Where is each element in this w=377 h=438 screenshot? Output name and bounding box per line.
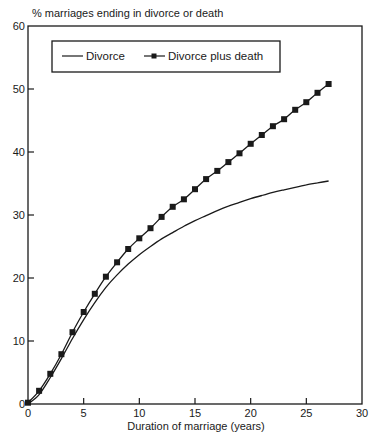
square-marker-icon: [303, 99, 309, 105]
square-marker-icon: [114, 259, 120, 265]
square-marker-icon: [36, 388, 42, 394]
legend-label-divorce-plus-death: Divorce plus death: [168, 50, 263, 62]
square-marker-icon: [203, 176, 209, 182]
square-marker-icon: [237, 150, 243, 156]
x-tick-label: 25: [300, 407, 312, 419]
square-marker-icon: [170, 204, 176, 210]
square-marker-icon: [92, 291, 98, 297]
square-marker-icon: [281, 116, 287, 122]
x-tick-label: 15: [189, 407, 201, 419]
square-marker-icon: [148, 225, 154, 231]
square-marker-icon: [315, 90, 321, 96]
square-marker-icon: [248, 141, 254, 147]
legend-square-marker-icon: [152, 54, 157, 59]
y-axis-title: % marriages ending in divorce or death: [32, 7, 223, 19]
x-tick-label: 0: [25, 407, 31, 419]
square-marker-icon: [136, 235, 142, 241]
square-marker-icon: [192, 186, 198, 192]
line-chart: % marriages ending in divorce or death 0…: [0, 0, 377, 438]
y-tick-label: 40: [13, 146, 25, 158]
square-marker-icon: [58, 351, 64, 357]
square-marker-icon: [270, 123, 276, 129]
square-marker-icon: [125, 246, 131, 252]
x-tick-label: 30: [356, 407, 368, 419]
plot-frame: [28, 26, 362, 404]
square-marker-icon: [214, 168, 220, 174]
square-marker-icon: [259, 132, 265, 138]
series-layer: [25, 81, 332, 406]
y-tick-label: 20: [13, 272, 25, 284]
x-tick-label: 10: [133, 407, 145, 419]
x-axis-ticks: 051015202530: [25, 398, 368, 419]
square-marker-icon: [292, 107, 298, 113]
y-axis-ticks: 0102030405060: [13, 20, 34, 410]
legend: Divorce Divorce plus death: [52, 41, 280, 72]
series-line-divorce-plus-death: [28, 84, 329, 403]
x-tick-label: 20: [245, 407, 257, 419]
square-marker-icon: [181, 196, 187, 202]
square-marker-icon: [103, 274, 109, 280]
series-line-divorce: [28, 181, 329, 404]
square-marker-icon: [81, 309, 87, 315]
y-tick-label: 30: [13, 209, 25, 221]
square-marker-icon: [326, 81, 332, 87]
square-marker-icon: [70, 329, 76, 335]
legend-label-divorce: Divorce: [86, 50, 125, 62]
square-marker-icon: [225, 159, 231, 165]
square-marker-icon: [47, 371, 53, 377]
square-marker-icon: [159, 214, 165, 220]
square-marker-icon: [25, 400, 31, 406]
x-tick-label: 5: [81, 407, 87, 419]
y-tick-label: 60: [13, 20, 25, 32]
y-tick-label: 10: [13, 335, 25, 347]
x-axis-title: Duration of marriage (years): [127, 420, 265, 432]
y-tick-label: 50: [13, 83, 25, 95]
